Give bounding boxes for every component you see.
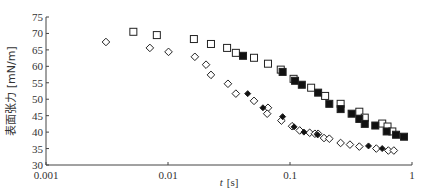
data-point-square: [251, 54, 258, 61]
data-point-diamond: [263, 110, 271, 118]
data-point-square: [298, 81, 305, 88]
data-points: [102, 28, 407, 154]
data-point-square: [401, 133, 408, 140]
data-point-square: [315, 89, 322, 96]
data-point-diamond: [232, 90, 240, 98]
data-point-square: [337, 106, 344, 113]
data-point-diamond: [337, 139, 345, 147]
data-point-square: [153, 32, 160, 39]
x-axis-label: t[s]: [220, 176, 239, 188]
data-point-diamond: [390, 147, 398, 155]
data-point-diamond: [245, 91, 251, 97]
data-point-square: [264, 60, 271, 67]
data-point-diamond: [250, 97, 258, 105]
surface-tension-chart: 303540455055606570750.0010.010.11 表面张力 […: [0, 0, 425, 192]
data-point-diamond: [326, 135, 334, 143]
data-point-square: [308, 84, 315, 91]
axes: 303540455055606570750.0010.010.11: [32, 11, 415, 181]
data-point-square: [207, 40, 214, 47]
data-point-diamond: [146, 44, 154, 52]
data-point-diamond: [207, 71, 215, 79]
data-point-diamond: [165, 48, 173, 56]
x-tick-label: 1: [409, 169, 415, 181]
y-tick-label: 40: [32, 126, 44, 138]
y-tick-label: 45: [32, 110, 44, 122]
y-tick-label: 65: [32, 44, 44, 56]
data-point-square: [372, 122, 379, 129]
data-point-diamond: [102, 38, 110, 46]
data-point-square: [326, 100, 333, 107]
data-point-square: [190, 36, 197, 43]
y-tick-label: 55: [32, 77, 44, 89]
data-point-square: [279, 68, 286, 75]
data-point-diamond: [366, 143, 372, 149]
y-tick-label: 70: [32, 27, 44, 39]
y-tick-label: 60: [32, 60, 44, 72]
x-tick-label: 0.01: [158, 169, 177, 181]
y-tick-label: 35: [32, 143, 44, 155]
data-point-square: [224, 44, 231, 51]
x-tick-label: 0.1: [283, 169, 297, 181]
data-point-diamond: [224, 80, 232, 88]
data-point-diamond: [356, 143, 364, 151]
data-point-square: [322, 92, 329, 99]
data-point-diamond: [191, 53, 199, 61]
data-point-square: [348, 110, 355, 117]
data-point-square: [232, 49, 239, 56]
data-point-diamond: [346, 141, 354, 149]
data-point-square: [292, 77, 299, 84]
y-tick-label: 75: [32, 11, 44, 23]
data-point-square: [361, 120, 368, 127]
data-point-square: [240, 52, 247, 59]
y-tick-label: 50: [32, 93, 44, 105]
data-point-diamond: [260, 105, 266, 111]
data-point-diamond: [202, 61, 210, 69]
data-point-square: [393, 131, 400, 138]
x-tick-label: 0.001: [34, 169, 59, 181]
y-axis-label: 表面张力 [mN/m]: [4, 46, 18, 135]
data-point-square: [383, 128, 390, 135]
data-point-square: [130, 28, 137, 35]
